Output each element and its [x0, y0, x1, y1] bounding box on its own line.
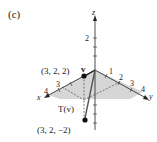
z-axis-label: z — [91, 8, 96, 17]
point-3-2-2 — [81, 73, 86, 78]
point-3-2-neg2 — [82, 117, 87, 122]
vector-v-label: v — [81, 64, 86, 74]
x-tick-label-3: 3 — [56, 80, 60, 89]
z-tick-label: 2 — [85, 34, 89, 43]
vector-tv-label: T(v) — [58, 104, 74, 114]
panel-label: (c) — [8, 8, 21, 21]
y-tick-label-1: 1 — [109, 67, 113, 76]
point-label-3-2-neg2: (3, 2, −2) — [37, 125, 71, 135]
y-axis-label: y — [148, 92, 153, 101]
y-tick-label-4: 4 — [141, 85, 145, 94]
y-tick-label-3: 3 — [130, 79, 134, 88]
3d-coordinate-diagram: (c) z 2 y x 1 2 3 4 3 4 v T(v) (3, 2, 2)… — [0, 0, 157, 142]
y-tick-label-2: 2 — [119, 73, 123, 82]
point-label-3-2-2: (3, 2, 2) — [41, 66, 70, 76]
x-axis-label: x — [36, 93, 41, 102]
x-tick-label-4: 4 — [44, 87, 48, 96]
